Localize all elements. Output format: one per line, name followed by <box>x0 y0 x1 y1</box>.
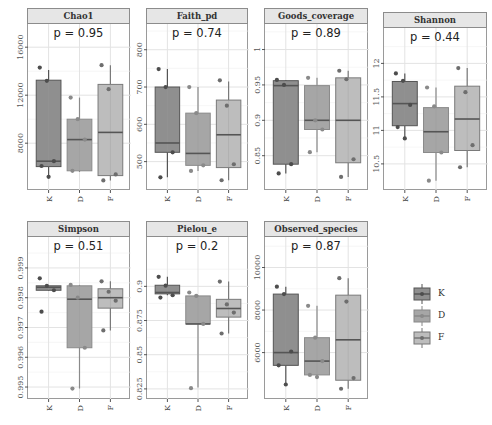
y-tick-label: 0.997 <box>16 316 25 339</box>
panel-strip-title: Chao1 <box>27 8 130 24</box>
panel-pielou-e: Pielou_e0.8250.850.8750.9KDFp = 0.2 <box>146 221 248 399</box>
p-value-label: p = 0.89 <box>265 26 367 40</box>
y-tick-label: 8000 <box>253 300 262 320</box>
box-d <box>67 96 92 173</box>
y-tick-label: 0.85 <box>253 147 262 165</box>
box-f <box>216 279 240 335</box>
box-f <box>336 69 361 179</box>
y-tick-label: 0.85 <box>135 346 144 364</box>
boxplot-svg: 0.9950.9960.9970.9980.999KDF <box>28 237 131 425</box>
legend-key-k-icon <box>410 284 436 304</box>
plot-area: 0.9950.9960.9970.9980.999KDFp = 0.51 <box>27 237 130 399</box>
x-tick-label: K <box>282 195 291 202</box>
y-tick-label: 0.95 <box>253 76 262 94</box>
x-tick-label: F <box>225 405 234 411</box>
x-tick-label: F <box>106 196 115 202</box>
p-value-label: p = 0.44 <box>384 30 486 44</box>
legend-item-d: D <box>410 306 470 326</box>
panel-shannon: Shannon10.51111.512KDFp = 0.44 <box>383 12 487 190</box>
p-value-label: p = 0.2 <box>147 239 247 253</box>
box-f <box>336 276 361 391</box>
y-tick-label: 0.995 <box>16 376 25 399</box>
x-tick-label: K <box>401 195 410 202</box>
box-k <box>36 66 61 179</box>
panel-simpson: Simpson0.9950.9960.9970.9980.999KDFp = 0… <box>27 221 130 399</box>
y-tick-label: 12000 <box>16 82 25 107</box>
y-tick-label: 0.996 <box>16 346 25 369</box>
boxplot-svg: 6000800010000KDF <box>265 237 369 425</box>
box-d <box>424 85 449 182</box>
y-tick-label: 10000 <box>253 255 262 280</box>
panel-chao1: Chao180001200016000KDFp = 0.95 <box>27 8 130 190</box>
x-tick-label: F <box>106 405 115 411</box>
p-value-label: p = 0.87 <box>265 239 367 253</box>
boxplot-svg: 0.850.90.951KDF <box>265 24 369 220</box>
y-tick-label: 10.5 <box>372 155 381 173</box>
y-tick-label: 11.5 <box>372 88 381 106</box>
y-tick-label: 12 <box>372 58 381 68</box>
boxplot-svg: 0.8250.850.8750.9KDF <box>147 237 249 425</box>
x-tick-label: D <box>76 196 85 202</box>
x-tick-label: D <box>194 196 203 202</box>
box-f <box>455 66 480 169</box>
box-d <box>67 283 92 391</box>
panel-faith-pd: Faith_pd500600700800KDFp = 0.74 <box>146 8 248 190</box>
box-k <box>155 67 179 179</box>
panel-strip-title: Observed_species <box>264 221 368 237</box>
panel-strip-title: Shannon <box>383 12 487 28</box>
y-tick-label: 800 <box>135 42 144 57</box>
y-tick-label: 0.9 <box>135 280 144 293</box>
legend-label-k: K <box>438 288 445 298</box>
y-tick-label: 600 <box>135 117 144 132</box>
box-f <box>98 63 123 182</box>
y-tick-label: 0.9 <box>253 114 262 127</box>
y-tick-label: 500 <box>135 154 144 169</box>
panel-observed-species: Observed_species6000800010000KDFp = 0.87 <box>264 221 368 399</box>
p-value-label: p = 0.51 <box>28 239 129 253</box>
y-tick-label: 700 <box>135 79 144 94</box>
x-tick-label: F <box>344 405 353 411</box>
legend-item-k: K <box>410 284 470 304</box>
legend-item-f: F <box>410 328 470 348</box>
box-d <box>186 85 210 173</box>
y-tick-label: 0.998 <box>16 286 25 309</box>
y-tick-label: 11 <box>372 125 381 135</box>
x-tick-label: D <box>76 405 85 411</box>
box-d <box>186 290 210 390</box>
legend-label-f: F <box>438 332 444 342</box>
x-tick-label: F <box>225 196 234 202</box>
plot-area: 10.51111.512KDFp = 0.44 <box>383 28 487 190</box>
y-tick-label: 0.999 <box>16 256 25 279</box>
x-tick-label: K <box>45 404 54 411</box>
x-tick-label: D <box>194 405 203 411</box>
plot-area: 500600700800KDFp = 0.74 <box>146 24 248 190</box>
panel-goods-coverage: Goods_coverage0.850.90.951KDFp = 0.89 <box>264 8 368 190</box>
y-tick-label: 1 <box>253 47 262 52</box>
p-value-label: p = 0.95 <box>28 26 129 40</box>
x-tick-label: K <box>163 404 172 411</box>
plot-area: 0.8250.850.8750.9KDFp = 0.2 <box>146 237 248 399</box>
panel-strip-title: Pielou_e <box>146 221 248 237</box>
box-d <box>305 76 330 155</box>
panel-strip-title: Simpson <box>27 221 130 237</box>
box-k <box>273 285 298 387</box>
panel-strip-title: Faith_pd <box>146 8 248 24</box>
box-d <box>305 304 330 379</box>
boxplot-svg: 500600700800KDF <box>147 24 249 220</box>
plot-area: 0.850.90.951KDFp = 0.89 <box>264 24 368 190</box>
y-tick-label: 8000 <box>16 133 25 153</box>
x-tick-label: F <box>344 196 353 202</box>
legend-key-d-icon <box>410 306 436 326</box>
p-value-label: p = 0.74 <box>147 26 247 40</box>
y-tick-label: 6000 <box>253 342 262 362</box>
plot-area: 80001200016000KDFp = 0.95 <box>27 24 130 190</box>
box-k <box>273 78 298 176</box>
legend-label-d: D <box>438 310 445 320</box>
x-tick-label: D <box>313 405 322 411</box>
box-f <box>216 78 240 182</box>
x-tick-label: F <box>463 196 472 202</box>
legend: K D F <box>410 284 470 364</box>
y-tick-label: 16000 <box>16 34 25 59</box>
panel-strip-title: Goods_coverage <box>264 8 368 24</box>
boxplot-svg: 10.51111.512KDF <box>384 28 488 220</box>
